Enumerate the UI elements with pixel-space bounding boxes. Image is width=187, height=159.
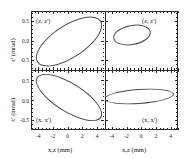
ellipse-z-zprime-top-right [112, 22, 153, 48]
xtick-label: 4 [164, 133, 178, 139]
xtick-label: 2 [149, 133, 163, 139]
xaxis-title-left: x,z (mm) [48, 146, 72, 153]
panel-label-bottom-left: (x, x') [36, 116, 51, 123]
ytick-bottom-0: 0.5 [12, 78, 29, 84]
tick [178, 70, 179, 72]
tick [178, 11, 179, 13]
xtick-label: 2 [75, 133, 89, 139]
xtick-label: 4 [90, 133, 104, 139]
xtick-label: -2 [46, 133, 60, 139]
tick [178, 128, 179, 130]
xaxis-title-right: x,z (mm) [122, 146, 146, 153]
yaxis-title-top: z' (mrad) [9, 38, 16, 62]
ellipse-x-xprime-bottom-right [105, 86, 174, 106]
xtick-label: -4 [31, 133, 45, 139]
phase-space-figure: (z, z') (z, z') (x, x') (x, x') 0.5 0.0 … [0, 0, 187, 159]
panel-label-top-right: (z, z') [142, 17, 157, 24]
panel-label-bottom-right: (x, x') [142, 116, 157, 123]
xtick-label: -2 [120, 133, 134, 139]
xtick-label: 0 [61, 133, 75, 139]
xtick-label: -4 [105, 133, 119, 139]
ytick-top-0: 0.5 [12, 18, 29, 24]
yaxis-title-bottom: x' (mrad) [9, 98, 16, 122]
xtick-label: 0 [134, 133, 148, 139]
panel-label-top-left: (z, z') [36, 17, 51, 24]
